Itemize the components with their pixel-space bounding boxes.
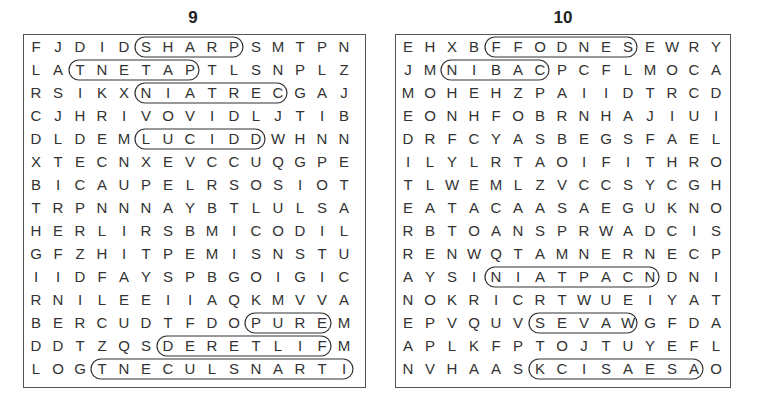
- grid-letter: F: [178, 311, 202, 335]
- grid-letter: J: [332, 81, 356, 105]
- grid-letter: I: [68, 288, 92, 312]
- grid-letter: O: [310, 173, 334, 197]
- grid-letter: P: [178, 265, 202, 289]
- grid-letter: O: [506, 104, 530, 128]
- grid-letter: T: [332, 173, 356, 197]
- grid-letter: C: [244, 219, 268, 243]
- grid-letter: Z: [68, 242, 92, 266]
- grid-letter: L: [418, 150, 442, 174]
- grid-letter: P: [528, 81, 552, 105]
- grid-letter: T: [440, 196, 464, 220]
- grid-letter: E: [616, 288, 640, 312]
- grid-letter: C: [682, 242, 706, 266]
- grid-letter: R: [572, 219, 596, 243]
- grid-letter: S: [528, 127, 552, 151]
- grid-letter: J: [396, 58, 420, 82]
- grid-letter: F: [90, 265, 114, 289]
- grid-letter: M: [418, 58, 442, 82]
- grid-letter: L: [704, 127, 728, 151]
- grid-letter: C: [462, 127, 486, 151]
- grid-letter: N: [440, 104, 464, 128]
- grid-letter: F: [594, 58, 618, 82]
- grid-letter: P: [572, 265, 596, 289]
- grid-letter: I: [288, 173, 312, 197]
- grid-letter: V: [178, 150, 202, 174]
- grid-letter: V: [310, 288, 334, 312]
- grid-letter: K: [440, 288, 464, 312]
- grid-letter: A: [112, 265, 136, 289]
- grid-letter: D: [244, 127, 268, 151]
- grid-letter: G: [288, 150, 312, 174]
- grid-letter: A: [396, 334, 420, 358]
- grid-letter: E: [396, 104, 420, 128]
- grid-letter: N: [134, 81, 158, 105]
- grid-letter: R: [682, 35, 706, 59]
- grid-letter: P: [156, 242, 180, 266]
- grid-letter: R: [68, 219, 92, 243]
- grid-letter: B: [24, 173, 48, 197]
- grid-letter: C: [68, 173, 92, 197]
- grid-letter: K: [244, 288, 268, 312]
- grid-letter: F: [484, 35, 508, 59]
- grid-letter: N: [266, 242, 290, 266]
- grid-letter: L: [90, 219, 114, 243]
- grid-letter: E: [682, 127, 706, 151]
- grid-letter: H: [68, 104, 92, 128]
- grid-letter: R: [134, 219, 158, 243]
- grid-letter: I: [112, 242, 136, 266]
- grid-letter: I: [332, 357, 356, 381]
- grid-letter: I: [178, 288, 202, 312]
- grid-letter: X: [24, 150, 48, 174]
- grid-letter: I: [200, 127, 224, 151]
- grid-letter: D: [46, 334, 70, 358]
- grid-letter: W: [462, 242, 486, 266]
- grid-letter: A: [682, 288, 706, 312]
- grid-letter: T: [506, 242, 530, 266]
- grid-letter: E: [462, 81, 486, 105]
- grid-letter: T: [638, 150, 662, 174]
- grid-letter: E: [244, 81, 268, 105]
- grid-letter: S: [222, 173, 246, 197]
- grid-letter: E: [156, 173, 180, 197]
- letter-grid: EHXBFFODNESEWRYJMNIBACPCFLMOCAMOHEHZPAII…: [395, 34, 731, 388]
- grid-letter: R: [200, 334, 224, 358]
- grid-letter: C: [660, 173, 684, 197]
- grid-letter: N: [506, 219, 530, 243]
- grid-letter: L: [134, 127, 158, 151]
- grid-letter: A: [572, 196, 596, 220]
- grid-letter: N: [440, 58, 464, 82]
- grid-letter: I: [156, 81, 180, 105]
- grid-letter: T: [594, 334, 618, 358]
- grid-letter: O: [704, 196, 728, 220]
- grid-letter: D: [24, 127, 48, 151]
- grid-letter: V: [288, 288, 312, 312]
- grid-letter: M: [484, 173, 508, 197]
- grid-letter: E: [156, 150, 180, 174]
- grid-letter: N: [484, 265, 508, 289]
- grid-letter: S: [440, 265, 464, 289]
- grid-letter: R: [396, 242, 420, 266]
- grid-letter: R: [288, 311, 312, 335]
- grid-letter: V: [572, 311, 596, 335]
- grid-letter: I: [68, 81, 92, 105]
- grid-letter: C: [24, 104, 48, 128]
- grid-letter: T: [704, 288, 728, 312]
- grid-letter: U: [266, 311, 290, 335]
- grid-letter: A: [200, 288, 224, 312]
- grid-letter: E: [660, 242, 684, 266]
- grid-letter: O: [244, 173, 268, 197]
- grid-letter: T: [24, 196, 48, 220]
- grid-letter: I: [90, 35, 114, 59]
- grid-letter: I: [310, 265, 334, 289]
- grid-letter: G: [638, 311, 662, 335]
- grid-letter: B: [550, 127, 574, 151]
- grid-letter: Q: [112, 334, 136, 358]
- grid-letter: M: [396, 81, 420, 105]
- grid-letter: S: [134, 334, 158, 358]
- grid-letter: B: [24, 311, 48, 335]
- grid-letter: A: [616, 357, 640, 381]
- grid-letter: C: [550, 357, 574, 381]
- grid-letter: A: [616, 219, 640, 243]
- grid-letter: S: [134, 35, 158, 59]
- grid-letter: P: [134, 173, 158, 197]
